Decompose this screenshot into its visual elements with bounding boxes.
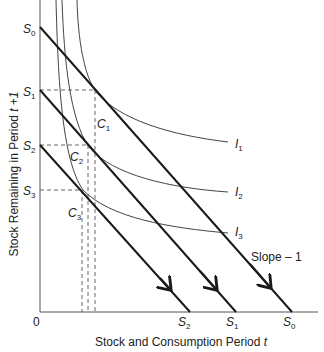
- curve-label-i3: I3: [235, 226, 243, 241]
- stock-lines: [40, 27, 292, 312]
- curve-label-i2: I2: [235, 186, 243, 201]
- x-tick-s1: S1: [226, 316, 238, 331]
- origin-label: 0: [33, 316, 40, 328]
- arrow-s2: [160, 278, 170, 289]
- y-tick-s2: S2: [23, 140, 35, 155]
- y-axis-title: Stock Remaining in Period t +1: [8, 84, 20, 264]
- x-tick-s0: S0: [283, 316, 295, 331]
- y-tick-s1: S1: [23, 86, 35, 101]
- indifference-curve-2: [62, 0, 228, 192]
- consumption-label-c3: C3: [68, 207, 81, 222]
- diagram-canvas: [0, 0, 324, 352]
- consumption-label-c2: C2: [70, 151, 83, 166]
- dashed-guides: [40, 90, 95, 312]
- x-tick-s2: S2: [178, 316, 190, 331]
- slope-label: Slope – 1: [251, 251, 302, 263]
- x-axis-title: Stock and Consumption Period t: [95, 336, 267, 348]
- y-tick-s0: S0: [23, 23, 35, 38]
- y-tick-s3: S3: [23, 185, 35, 200]
- arrow-s0: [250, 264, 270, 287]
- consumption-label-c1: C1: [97, 118, 110, 133]
- curve-label-i1: I1: [235, 138, 243, 153]
- arrow-s1: [200, 271, 216, 289]
